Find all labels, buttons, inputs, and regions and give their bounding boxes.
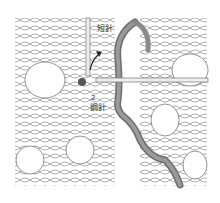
top-needle-label: 短針 xyxy=(97,25,113,33)
middle-needle-label: 鋼針 xyxy=(90,104,106,112)
middle-needle xyxy=(96,78,208,82)
step-number-label: 2 xyxy=(91,95,95,102)
top-needle xyxy=(86,18,90,76)
left-crochet-motif xyxy=(15,18,115,186)
crochet-diagram: 短針 2 鋼針 xyxy=(0,0,220,203)
hook-loop xyxy=(78,78,86,86)
